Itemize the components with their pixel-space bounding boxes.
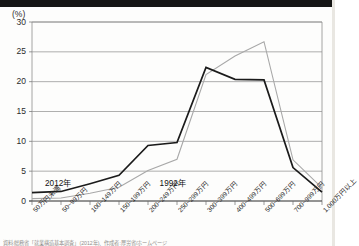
series-annotation-label: 2012年 bbox=[45, 176, 71, 188]
series-annotation-label: 1992年 bbox=[160, 176, 186, 188]
y-axis-tick-label: 0 bbox=[4, 196, 26, 206]
y-axis-tick-label: 15 bbox=[4, 106, 26, 116]
y-axis-tick-label: 25 bbox=[4, 46, 26, 56]
y-axis-tick-label: 30 bbox=[4, 17, 26, 27]
series-line bbox=[32, 67, 322, 192]
y-axis-tick-label: 20 bbox=[4, 76, 26, 86]
y-axis-tick-label: 10 bbox=[4, 136, 26, 146]
y-axis-tick-label: 5 bbox=[4, 166, 26, 176]
source-note: 資料:総務省「就業構造基本調査」(2012年)、作成者:厚労省/ホームページ bbox=[3, 239, 167, 246]
